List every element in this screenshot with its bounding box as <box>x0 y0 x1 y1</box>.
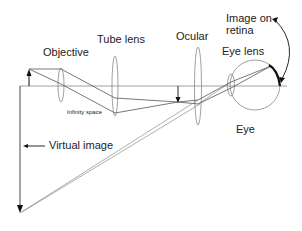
label-image-on-retina-line2: retina <box>226 25 254 36</box>
label-eye: Eye <box>236 124 255 135</box>
label-objective: Objective <box>43 47 89 58</box>
label-virtual-image: Virtual image <box>49 140 113 151</box>
label-image-on-retina-line1: Image on <box>226 13 272 24</box>
retina-pointer-arrow <box>275 20 290 79</box>
optics-diagram: Objective Tube lens Ocular Image on reti… <box>0 0 302 231</box>
diagram-drawing <box>0 0 302 231</box>
label-eye-lens: Eye lens <box>222 46 264 57</box>
label-tube-lens: Tube lens <box>97 34 145 45</box>
retina-image <box>269 65 280 86</box>
virtual-image-pointer-arrowhead <box>23 144 28 148</box>
label-infinity-space: Infinity space <box>67 109 102 115</box>
label-ocular: Ocular <box>176 31 208 42</box>
